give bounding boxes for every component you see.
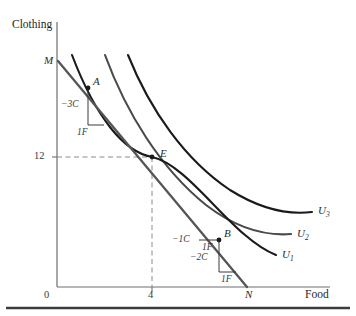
curve-label-u2: U2	[297, 228, 309, 242]
slope-label-b-curve-rise: −1C	[172, 235, 190, 245]
curve-label-u3-base: U	[318, 204, 326, 216]
curve-label-u3: U3	[318, 205, 330, 219]
indifference-curve-3-path	[128, 55, 312, 213]
y-tick-label-12: 12	[34, 151, 45, 162]
y-axis-title: Clothing	[12, 19, 52, 31]
x-axis-title: Food	[305, 289, 329, 301]
slope-label-b-budget-rise: −2C	[190, 253, 208, 263]
point-label-e: E	[160, 148, 167, 159]
curve-label-u1: U1	[282, 249, 294, 263]
slope-label-a-run: 1F	[77, 128, 88, 138]
point-label-a: A	[93, 76, 100, 87]
point-label-b: B	[224, 228, 231, 239]
point-a-marker	[86, 86, 91, 91]
indifference-curve-1-path	[72, 55, 276, 255]
curve-label-u3-sub: 3	[326, 210, 330, 219]
figure-canvas	[0, 0, 356, 316]
x-intercept-label-n: N	[245, 289, 252, 300]
point-b-marker	[217, 238, 222, 243]
slope-label-b-budget-run: 1F	[221, 275, 232, 285]
origin-label: 0	[44, 290, 49, 301]
slope-label-a-rise: −3C	[61, 100, 79, 110]
curve-label-u1-sub: 1	[290, 254, 294, 263]
point-e-marker	[150, 155, 155, 160]
indifference-curve-2-path	[105, 55, 291, 234]
curve-label-u1-base: U	[282, 248, 290, 260]
indifference-curve-figure: Clothing Food 0 12 M 4 N A E B −3C 1F −1…	[0, 0, 356, 316]
x-tick-label-4: 4	[148, 290, 153, 301]
curve-label-u2-sub: 2	[305, 233, 309, 242]
curve-label-u2-base: U	[297, 227, 305, 239]
y-intercept-label-m: M	[44, 55, 53, 66]
